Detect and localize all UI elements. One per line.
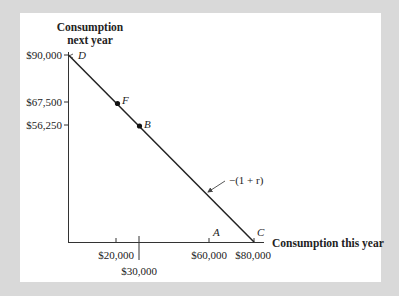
x-tick-label-80000: $80,000 xyxy=(235,249,271,261)
d-arrow-icon xyxy=(69,54,73,58)
point-label-a: A xyxy=(212,226,220,238)
budget-line-chart: Consumption next year $90,000 $67,500 $5… xyxy=(0,0,399,296)
slope-label: −(1 + r) xyxy=(229,174,264,187)
slope-arrow-icon xyxy=(208,181,225,192)
point-label-c: C xyxy=(257,226,265,238)
x-tick-label-60000: $60,000 xyxy=(191,249,227,261)
y-axis-title-line2: next year xyxy=(67,34,113,47)
x-tick-label-30000: $30,000 xyxy=(121,265,157,277)
y-tick-label-67500: $67,500 xyxy=(26,96,62,108)
x-axis-title: Consumption this year xyxy=(272,237,384,250)
budget-line xyxy=(69,55,255,242)
point-f-marker xyxy=(115,101,120,106)
point-label-d: D xyxy=(77,49,86,61)
y-tick-label-90000: $90,000 xyxy=(26,49,62,61)
y-axis-title-line1: Consumption xyxy=(57,21,124,34)
point-label-f: F xyxy=(121,94,129,106)
point-b-marker xyxy=(137,123,142,128)
y-tick-label-56250: $56,250 xyxy=(26,119,62,131)
point-label-b: B xyxy=(144,118,151,130)
x-tick-label-20000: $20,000 xyxy=(98,249,134,261)
